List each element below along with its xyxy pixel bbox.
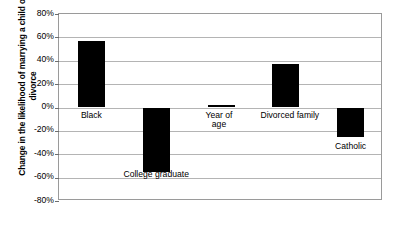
category-label: Year of age	[197, 111, 241, 130]
bar	[208, 105, 235, 107]
y-tick-label: 60%	[20, 32, 54, 41]
category-label: College graduate	[111, 170, 201, 180]
y-tick-label: -20%	[20, 125, 54, 134]
bar-chart-figure: Change in the likelihood of marrying a c…	[0, 0, 402, 225]
category-label: Black	[56, 111, 126, 121]
y-tick-label: 20%	[20, 79, 54, 88]
bar	[337, 108, 364, 137]
category-label: Catholic	[324, 142, 378, 152]
category-label: Divorced family	[249, 111, 331, 121]
y-tick-label: -80%	[20, 196, 54, 205]
y-tick-label: 0%	[20, 102, 54, 111]
y-axis-tick-labels: 80%60%40%20%0%-20%-40%-60%-80%	[22, 13, 56, 200]
bar	[78, 41, 105, 108]
bar	[272, 64, 299, 107]
y-tick-label: 40%	[20, 55, 54, 64]
plot-area: BlackCollege graduateYear of ageDivorced…	[58, 13, 382, 200]
y-tick-mark	[55, 201, 59, 202]
y-tick-label: -60%	[20, 172, 54, 181]
bar	[143, 108, 170, 172]
bars-group	[59, 14, 381, 199]
y-tick-label: -40%	[20, 149, 54, 158]
y-tick-label: 80%	[20, 9, 54, 18]
